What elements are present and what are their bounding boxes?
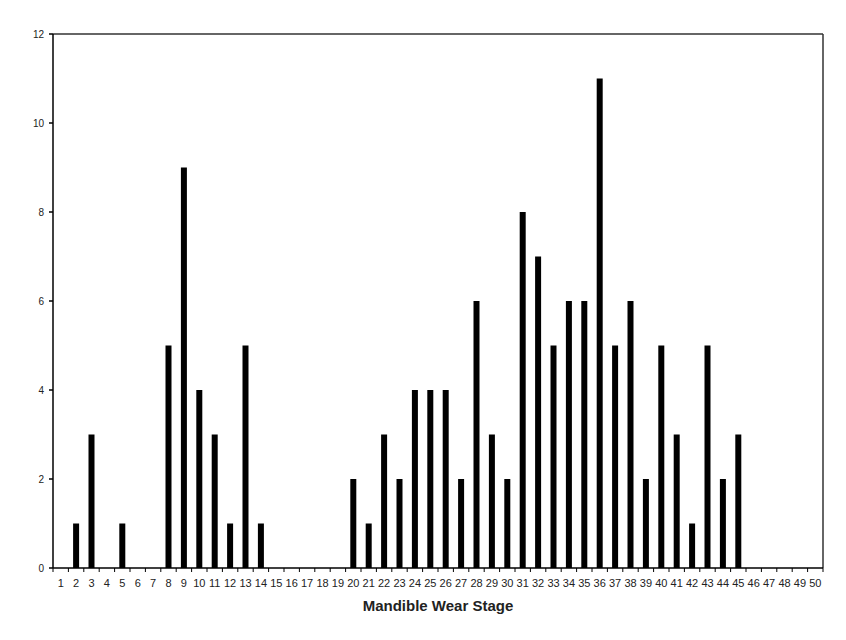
x-tick-label: 28 bbox=[470, 577, 482, 589]
y-axis: 024681012 bbox=[33, 29, 53, 574]
x-tick-label: 50 bbox=[809, 577, 821, 589]
x-tick-label: 34 bbox=[563, 577, 575, 589]
x-tick-label: 37 bbox=[609, 577, 621, 589]
x-tick-label: 40 bbox=[655, 577, 667, 589]
bar-stage-13 bbox=[243, 346, 249, 569]
bar-stage-20 bbox=[350, 479, 356, 568]
bar-stage-43 bbox=[705, 346, 711, 569]
x-tick-label: 6 bbox=[135, 577, 141, 589]
bar-stage-21 bbox=[366, 524, 372, 569]
x-tick-label: 17 bbox=[301, 577, 313, 589]
x-tick-label: 1 bbox=[58, 577, 64, 589]
x-tick-label: 43 bbox=[701, 577, 713, 589]
bar-stage-11 bbox=[212, 435, 218, 569]
x-tick-label: 29 bbox=[486, 577, 498, 589]
bar-stage-34 bbox=[566, 301, 572, 568]
bar-stage-31 bbox=[520, 212, 526, 568]
bar-stage-9 bbox=[181, 168, 187, 569]
x-tick-label: 46 bbox=[748, 577, 760, 589]
x-tick-label: 25 bbox=[424, 577, 436, 589]
bar-stage-27 bbox=[458, 479, 464, 568]
x-tick-label: 26 bbox=[440, 577, 452, 589]
bar-stage-25 bbox=[427, 390, 433, 568]
bar-stage-37 bbox=[612, 346, 618, 569]
bar-stage-12 bbox=[227, 524, 233, 569]
bar-stage-14 bbox=[258, 524, 264, 569]
bar-stage-39 bbox=[643, 479, 649, 568]
x-tick-label: 4 bbox=[104, 577, 110, 589]
y-tick-label: 12 bbox=[33, 29, 45, 40]
bar-stage-45 bbox=[735, 435, 741, 569]
bar-stage-23 bbox=[397, 479, 403, 568]
x-tick-label: 20 bbox=[347, 577, 359, 589]
x-tick-label: 7 bbox=[150, 577, 156, 589]
x-tick-label: 15 bbox=[270, 577, 282, 589]
x-tick-label: 47 bbox=[763, 577, 775, 589]
bar-stage-41 bbox=[674, 435, 680, 569]
x-tick-label: 19 bbox=[332, 577, 344, 589]
x-tick-label: 31 bbox=[517, 577, 529, 589]
x-tick-label: 13 bbox=[239, 577, 251, 589]
bar-stage-32 bbox=[535, 257, 541, 569]
x-tick-label: 36 bbox=[594, 577, 606, 589]
bar-stage-30 bbox=[504, 479, 510, 568]
x-tick-label: 24 bbox=[409, 577, 421, 589]
x-tick-label: 10 bbox=[193, 577, 205, 589]
x-tick-label: 16 bbox=[286, 577, 298, 589]
bar-stage-28 bbox=[474, 301, 480, 568]
x-tick-label: 23 bbox=[393, 577, 405, 589]
x-tick-label: 35 bbox=[578, 577, 590, 589]
bar-stage-35 bbox=[581, 301, 587, 568]
bar-stage-2 bbox=[73, 524, 79, 569]
bar-stage-36 bbox=[597, 79, 603, 569]
x-tick-label: 41 bbox=[671, 577, 683, 589]
x-tick-label: 32 bbox=[532, 577, 544, 589]
x-tick-label: 3 bbox=[88, 577, 94, 589]
x-tick-label: 12 bbox=[224, 577, 236, 589]
bar-stage-10 bbox=[196, 390, 202, 568]
x-tick-label: 2 bbox=[73, 577, 79, 589]
x-tick-label: 30 bbox=[501, 577, 513, 589]
bars-group bbox=[73, 79, 741, 569]
y-tick-label: 0 bbox=[38, 563, 44, 574]
x-tick-label: 14 bbox=[255, 577, 267, 589]
y-tick-label: 2 bbox=[38, 474, 44, 485]
y-tick-label: 10 bbox=[33, 118, 45, 129]
bar-stage-3 bbox=[89, 435, 95, 569]
y-tick-label: 6 bbox=[38, 296, 44, 307]
x-tick-label: 11 bbox=[209, 577, 220, 589]
y-tick-label: 8 bbox=[38, 207, 44, 218]
x-axis: 1234567891011121314151617181920212223242… bbox=[53, 568, 823, 589]
x-tick-label: 21 bbox=[363, 577, 375, 589]
x-tick-label: 5 bbox=[119, 577, 125, 589]
bar-stage-40 bbox=[658, 346, 664, 569]
y-tick-label: 4 bbox=[38, 385, 44, 396]
bar-stage-42 bbox=[689, 524, 695, 569]
bar-stage-33 bbox=[551, 346, 557, 569]
x-tick-label: 22 bbox=[378, 577, 390, 589]
bar-stage-44 bbox=[720, 479, 726, 568]
x-tick-label: 45 bbox=[732, 577, 744, 589]
bar-chart: 024681012 123456789101112131415161718192… bbox=[0, 0, 846, 640]
bar-stage-24 bbox=[412, 390, 418, 568]
bar-stage-26 bbox=[443, 390, 449, 568]
bar-stage-5 bbox=[119, 524, 125, 569]
x-tick-label: 39 bbox=[640, 577, 652, 589]
bar-stage-22 bbox=[381, 435, 387, 569]
x-tick-label: 42 bbox=[686, 577, 698, 589]
x-tick-label: 44 bbox=[717, 577, 729, 589]
x-tick-label: 18 bbox=[316, 577, 328, 589]
x-tick-label: 8 bbox=[165, 577, 171, 589]
bar-stage-8 bbox=[166, 346, 172, 569]
bar-stage-38 bbox=[628, 301, 634, 568]
x-axis-title: Mandible Wear Stage bbox=[363, 597, 514, 614]
x-tick-label: 33 bbox=[547, 577, 559, 589]
bar-stage-29 bbox=[489, 435, 495, 569]
x-tick-label: 9 bbox=[181, 577, 187, 589]
x-tick-label: 38 bbox=[624, 577, 636, 589]
x-tick-label: 27 bbox=[455, 577, 467, 589]
x-tick-label: 49 bbox=[794, 577, 806, 589]
x-tick-label: 48 bbox=[778, 577, 790, 589]
